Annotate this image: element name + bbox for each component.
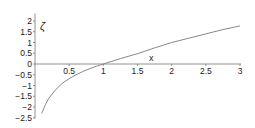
x-tick-label: 0.5 (63, 66, 75, 76)
x-tick-label: 3 (238, 66, 243, 76)
y-tick-label: 0 (27, 59, 32, 69)
y-tick-label: 1.5 (20, 27, 32, 37)
x-tick-label: 2 (169, 66, 174, 76)
x-tick-label: 2.5 (200, 66, 212, 76)
y-tick-label: −1 (22, 81, 32, 91)
y-tick-label: −2 (22, 102, 32, 112)
x-tick-label: 1 (101, 66, 106, 76)
chart: 0.511.522.5321.510.50−0.5−1−1.5−2−2.5xζ (0, 0, 255, 128)
y-tick-label: 1 (27, 38, 32, 48)
x-axis-label: x (149, 53, 154, 63)
y-tick-label: −2.5 (15, 113, 32, 123)
x-tick-label: 1.5 (132, 66, 144, 76)
y-tick-label: −1.5 (15, 91, 32, 101)
axis-labels: 0.511.522.5321.510.50−0.5−1−1.5−2−2.5xζ (15, 16, 242, 123)
y-axis-label: ζ (40, 20, 46, 33)
y-tick-label: 0.5 (20, 48, 32, 58)
y-tick-label: −0.5 (15, 70, 32, 80)
y-tick-label: 2 (27, 16, 32, 26)
